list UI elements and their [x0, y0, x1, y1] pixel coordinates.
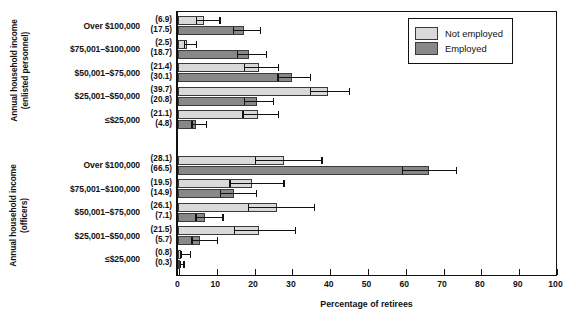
- value-label-not-employed: (39.7): [151, 85, 172, 94]
- error-bar-cap: [273, 98, 274, 105]
- value-label-not-employed: (21.5): [151, 225, 172, 234]
- value-label-employed: (0.3): [155, 258, 172, 267]
- error-bar-cap: [234, 227, 235, 234]
- value-label-employed: (30.1): [151, 72, 172, 81]
- error-bar-cap: [180, 251, 181, 258]
- error-bar-employed: [178, 213, 559, 222]
- category-label: Over $100,000: [8, 21, 140, 31]
- legend-swatch-employed-icon: [415, 42, 438, 55]
- error-bar-line: [234, 230, 296, 231]
- error-bar-cap: [277, 74, 278, 81]
- value-label-employed: (66.5): [151, 164, 172, 173]
- category-label: Over $100,000: [8, 160, 140, 170]
- error-bar-line: [244, 67, 280, 68]
- error-bar-employed: [178, 260, 559, 269]
- error-bar-line: [237, 54, 268, 55]
- x-axis-tick: [330, 269, 331, 275]
- chart-container: Annual household income (enlisted person…: [0, 0, 576, 324]
- x-tick-label: 60: [389, 279, 419, 289]
- category-label: $25,001–$50,000: [8, 91, 140, 101]
- error-bar-not-employed: [178, 179, 559, 188]
- error-bar-cap: [233, 27, 234, 34]
- error-bar-not-employed: [178, 110, 559, 119]
- x-tick-label: 40: [314, 279, 344, 289]
- error-bar-cap: [220, 190, 221, 197]
- error-bar-cap: [283, 180, 284, 187]
- x-tick-label: 70: [427, 279, 457, 289]
- error-bar-cap: [184, 41, 185, 48]
- x-tick-label: 20: [238, 279, 268, 289]
- x-tick-label: 100: [541, 279, 571, 289]
- x-tick-label: 50: [352, 279, 382, 289]
- error-bar-not-employed: [178, 203, 559, 212]
- error-bar-cap: [314, 204, 315, 211]
- x-axis-tick: [519, 269, 520, 275]
- error-bar-line: [229, 183, 284, 184]
- error-bar-not-employed: [178, 63, 559, 72]
- error-bar-cap: [349, 88, 350, 95]
- error-bar-cap: [255, 157, 256, 164]
- legend-label-employed: Employed: [445, 43, 487, 54]
- error-bar-employed: [178, 236, 559, 245]
- error-bar-cap: [244, 98, 245, 105]
- error-bar-employed: [178, 189, 559, 198]
- x-axis-title: Percentage of retirees: [176, 299, 557, 309]
- x-tick-label: 30: [276, 279, 306, 289]
- value-label-employed: (14.9): [151, 188, 172, 197]
- category-label: $75,001–$100,000: [8, 44, 140, 54]
- error-bar-line: [402, 170, 457, 171]
- x-tick-label: 10: [200, 279, 230, 289]
- x-tick-label: 0: [163, 279, 193, 289]
- legend-label-not-employed: Not employed: [445, 28, 503, 39]
- error-bar-line: [255, 160, 323, 161]
- error-bar-employed: [178, 97, 559, 106]
- value-label-not-employed: (21.4): [151, 62, 172, 71]
- value-label-column: (6.9)(17.5)(2.5)(18.7)(21.4)(30.1)(39.7)…: [138, 0, 174, 290]
- error-bar-cap: [237, 51, 238, 58]
- x-tick-label: 80: [465, 279, 495, 289]
- value-label-employed: (17.5): [151, 25, 172, 34]
- category-label: $75,001–$100,000: [8, 184, 140, 194]
- error-bar-cap: [260, 27, 261, 34]
- error-bar-line: [244, 101, 274, 102]
- x-axis-tick: [406, 269, 407, 275]
- value-label-employed: (7.1): [155, 211, 172, 220]
- error-bar-cap: [196, 41, 197, 48]
- value-label-not-employed: (19.5): [151, 178, 172, 187]
- error-bar-line: [191, 124, 207, 125]
- legend-swatch-not-employed-icon: [415, 27, 438, 40]
- error-bar-cap: [248, 204, 249, 211]
- value-label-not-employed: (28.1): [151, 154, 172, 163]
- x-axis-tick: [217, 269, 218, 275]
- error-bar-cap: [196, 17, 197, 24]
- error-bar-not-employed: [178, 156, 559, 165]
- error-bar-not-employed: [178, 87, 559, 96]
- error-bar-cap: [402, 167, 403, 174]
- error-bar-not-employed: [178, 226, 559, 235]
- value-label-not-employed: (6.9): [155, 15, 172, 24]
- value-label-employed: (20.8): [151, 95, 172, 104]
- category-label: $25,001–$50,000: [8, 231, 140, 241]
- error-bar-employed: [178, 166, 559, 175]
- error-bar-cap: [222, 214, 223, 221]
- value-label-employed: (5.7): [155, 235, 172, 244]
- error-bar-line: [191, 240, 218, 241]
- error-bar-cap: [321, 157, 322, 164]
- x-axis-tick: [292, 269, 293, 275]
- x-axis-tick: [444, 269, 445, 275]
- x-axis-tick: [179, 269, 180, 275]
- value-label-not-employed: (21.1): [151, 109, 172, 118]
- error-bar-line: [310, 91, 350, 92]
- error-bar-cap: [190, 251, 191, 258]
- error-bar-line: [242, 114, 279, 115]
- legend: Not employed Employed: [408, 18, 513, 64]
- legend-item-employed: Employed: [415, 42, 503, 55]
- error-bar-line: [233, 30, 261, 31]
- legend-item-not-employed: Not employed: [415, 27, 503, 40]
- error-bar-line: [277, 77, 311, 78]
- error-bar-cap: [180, 261, 181, 268]
- error-bar-line: [195, 217, 223, 218]
- value-label-employed: (18.7): [151, 48, 172, 57]
- x-axis-tick: [481, 269, 482, 275]
- error-bar-cap: [206, 121, 207, 128]
